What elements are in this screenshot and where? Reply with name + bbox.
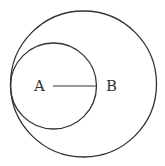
label-b: B xyxy=(106,77,117,95)
big-circle xyxy=(11,11,157,157)
geometry-diagram: A B xyxy=(0,0,165,166)
label-a: A xyxy=(33,77,45,95)
